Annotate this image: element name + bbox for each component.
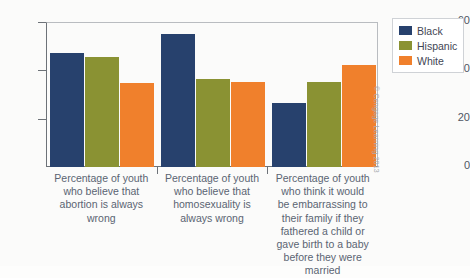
legend-item-label: Black xyxy=(417,25,443,37)
bar xyxy=(161,34,195,167)
bar xyxy=(231,82,265,167)
legend-item[interactable]: Hispanic xyxy=(398,38,459,53)
legend-item-label: Hispanic xyxy=(417,40,457,52)
copyright-credit: © Cengage Learning 2013 xyxy=(373,86,380,173)
legend-item[interactable]: Black xyxy=(398,23,459,38)
bar-group xyxy=(161,23,265,167)
y-axis-tick xyxy=(38,22,46,23)
label-line: who believe that xyxy=(39,185,163,198)
label-line: who think it would xyxy=(261,185,385,198)
legend-item[interactable]: White xyxy=(398,53,459,68)
x-axis-category-label: Percentage of youthwho believe thathomos… xyxy=(150,172,274,225)
label-line: before they were xyxy=(261,251,385,264)
label-line: Percentage of youth xyxy=(39,172,163,185)
x-axis-category-label: Percentage of youthwho believe thatabort… xyxy=(39,172,163,225)
label-line: Percentage of youth xyxy=(261,172,385,185)
bar-group xyxy=(272,23,376,167)
bar-groups xyxy=(47,23,377,167)
label-line: be embarrassing to xyxy=(261,198,385,211)
bar-group xyxy=(50,23,154,167)
label-line: their family if they xyxy=(261,212,385,225)
bar xyxy=(272,103,306,167)
y-axis-tick xyxy=(38,119,46,120)
bar xyxy=(342,65,376,167)
label-line: gave birth to a baby xyxy=(261,238,385,251)
legend-swatch-icon xyxy=(398,55,413,66)
label-line: Percentage of youth xyxy=(150,172,274,185)
legend: BlackHispanicWhite xyxy=(392,18,464,73)
label-line: married xyxy=(261,264,385,277)
label-line: homosexuality is xyxy=(150,198,274,211)
bar xyxy=(307,82,341,167)
y-axis-tick xyxy=(38,70,46,71)
label-line: abortion is always xyxy=(39,198,163,211)
bar xyxy=(196,79,230,167)
label-line: wrong xyxy=(39,212,163,225)
y-axis-tick-label: 0 xyxy=(440,159,470,171)
y-axis-tick-label: 20 xyxy=(440,111,470,123)
bar xyxy=(85,57,119,167)
bar xyxy=(120,83,154,167)
bar xyxy=(50,53,84,167)
legend-swatch-icon xyxy=(398,25,413,36)
legend-item-label: White xyxy=(417,55,444,67)
label-line: who believe that xyxy=(150,185,274,198)
x-axis-category-label: Percentage of youthwho think it wouldbe … xyxy=(261,172,385,278)
legend-swatch-icon xyxy=(398,40,413,51)
label-line: fathered a child or xyxy=(261,225,385,238)
label-line: always wrong xyxy=(150,212,274,225)
